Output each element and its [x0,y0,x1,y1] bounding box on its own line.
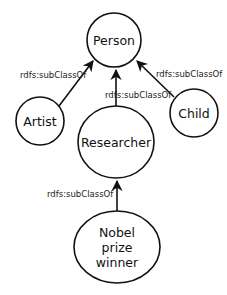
node-researcher: Researcher [78,106,154,178]
edge-label: rdfs:subClassOf [20,70,87,80]
edge-label: rdfs:subClassOf [47,189,114,199]
node-artist: Artist [16,97,64,145]
node-label: Person [93,33,135,48]
node-label-line: prize [102,240,133,255]
node-person: Person [87,13,141,67]
node-label: Child [178,106,210,121]
node-label: Researcher [81,135,152,150]
node-label-line: Nobel [99,225,135,240]
edge-label: rdfs:subClassOf [156,69,223,79]
class-diagram: rdfs:subClassOf rdfs:subClassOf rdfs:sub… [0,0,227,295]
node-label: Artist [23,114,57,129]
edge-nobel-researcher: rdfs:subClassOf [47,181,117,211]
node-label-line: winner [96,255,139,270]
arrow-icon [59,61,93,106]
node-nobel-prize-winner: Nobel prize winner [74,211,160,283]
node-child: Child [170,89,218,137]
edge-label: rdfs:subClassOf [105,90,172,100]
